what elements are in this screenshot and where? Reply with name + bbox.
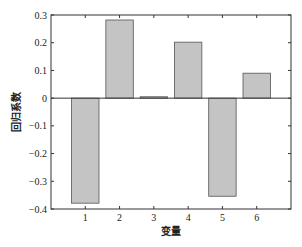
x-tick-label: 3 [151,212,156,223]
bar-5 [209,98,236,196]
bar-4 [174,42,201,98]
y-tick-label: 0.2 [35,37,48,48]
x-axis-label: 变量 [161,225,181,237]
bar-2 [106,20,133,98]
x-tick-label: 2 [117,212,122,223]
y-axis-label: 回归系数 [10,91,22,132]
y-tick-label: 0 [42,93,47,104]
y-tick-label: 0.3 [35,10,48,21]
y-tick-label: 0.1 [35,65,48,76]
bar-6 [243,73,270,98]
y-axis: 0.30.20.10−0.1−0.2−0.3−0.4 [29,10,291,215]
y-tick-label: −0.3 [29,176,47,187]
x-tick-label: 6 [254,212,259,223]
bar-chart: 0.30.20.10−0.1−0.2−0.3−0.4 123456 变量 回归系… [0,0,302,247]
y-tick-label: −0.4 [29,204,47,215]
bar-1 [72,98,99,203]
bars-group [72,20,271,203]
x-tick-label: 5 [220,212,225,223]
x-tick-label: 1 [83,212,88,223]
y-tick-label: −0.1 [29,120,47,131]
x-tick-label: 4 [186,212,191,223]
y-tick-label: −0.2 [29,148,47,159]
